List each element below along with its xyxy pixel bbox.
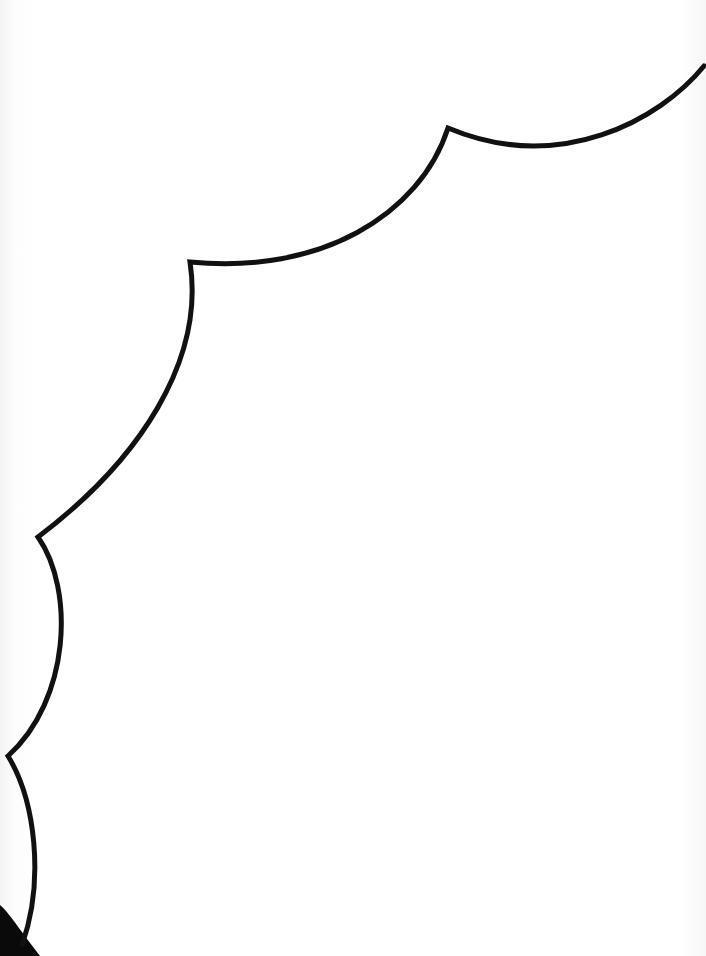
corner-shadow <box>0 905 40 956</box>
cloud-outline-drawing <box>0 0 706 956</box>
scanned-page <box>0 0 706 956</box>
scalloped-outline <box>8 66 704 945</box>
